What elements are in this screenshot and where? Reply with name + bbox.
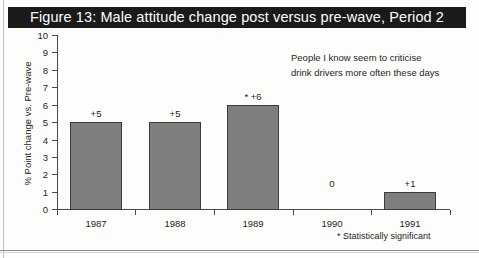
chart-annotation: People I know seem to criticise drink dr… [291, 50, 439, 80]
x-axis-tick-5 [450, 210, 451, 215]
bar-1991 [384, 192, 436, 210]
y-axis-tick-3 [52, 157, 57, 158]
chart-annotation-line-2: drink drivers more often these days [291, 65, 439, 80]
y-axis-label-10: 10 [14, 31, 48, 40]
y-axis-label-3: 3 [14, 153, 48, 162]
x-axis-label-1991: 1991 [380, 218, 440, 229]
bar-label-1991: +1 [380, 178, 440, 189]
y-axis-tick-10 [52, 35, 57, 36]
x-axis-label-1987: 1987 [66, 218, 126, 229]
y-axis-line [57, 35, 58, 210]
page-bottom-border [0, 250, 479, 251]
x-axis-label-1988: 1988 [145, 218, 205, 229]
y-axis-label-6: 6 [14, 101, 48, 110]
page-bottom-border-secondary [0, 252, 479, 253]
y-axis-label-5: 5 [14, 118, 48, 127]
y-axis-label-2: 2 [14, 170, 48, 179]
bar-1988 [149, 122, 201, 210]
bar-label-1990: 0 [302, 178, 362, 189]
y-axis-label-8: 8 [14, 66, 48, 75]
y-axis-tick-1 [52, 192, 57, 193]
bar-label-1988: +5 [145, 108, 205, 119]
figure-title: Figure 13: Male attitude change post ver… [8, 7, 466, 28]
y-axis-label-4: 4 [14, 136, 48, 145]
significance-footnote: * Statistically significant [337, 231, 431, 241]
x-axis-tick-0 [57, 210, 58, 215]
y-axis-tick-6 [52, 105, 57, 106]
y-axis-tick-2 [52, 174, 57, 175]
y-axis-tick-5 [52, 122, 57, 123]
y-axis-tick-7 [52, 87, 57, 88]
figure-container: Figure 13: Male attitude change post ver… [0, 0, 479, 258]
y-axis-tick-8 [52, 70, 57, 71]
bar-1989 [227, 105, 279, 210]
x-axis-tick-1 [135, 210, 136, 215]
x-axis-label-1990: 1990 [302, 218, 362, 229]
y-axis-label-9: 9 [14, 48, 48, 57]
y-axis-tick-4 [52, 140, 57, 141]
x-axis-tick-2 [214, 210, 215, 215]
bar-label-1989: * +6 [223, 91, 283, 102]
x-axis-label-1989: 1989 [223, 218, 283, 229]
bar-label-1987: +5 [66, 108, 126, 119]
bar-1987 [70, 122, 122, 210]
chart-annotation-line-1: People I know seem to criticise [291, 50, 439, 65]
x-axis-tick-4 [371, 210, 372, 215]
y-axis-label-0: 0 [14, 205, 48, 214]
x-axis-tick-3 [293, 210, 294, 215]
y-axis-tick-9 [52, 52, 57, 53]
y-axis-label-7: 7 [14, 83, 48, 92]
page-left-border [3, 0, 4, 258]
y-axis-label-1: 1 [14, 188, 48, 197]
